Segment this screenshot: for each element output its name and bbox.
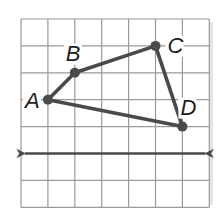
geometry-figure: ABCD <box>0 0 223 216</box>
vertex-c-dot <box>151 41 161 51</box>
vertex-b-label: B <box>66 41 81 66</box>
vertex-c-label: C <box>168 33 184 58</box>
vertex-a-dot <box>43 95 53 105</box>
vertex-b-dot <box>70 68 80 78</box>
vertex-d-dot <box>177 122 187 132</box>
vertex-a-label: A <box>23 88 40 113</box>
vertex-d-label: D <box>180 95 196 120</box>
